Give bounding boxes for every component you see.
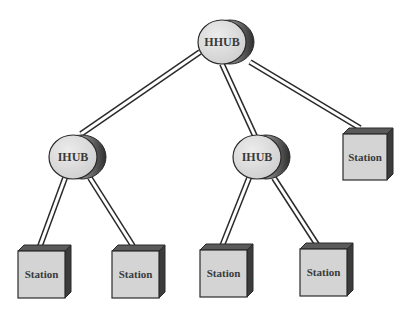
hierarchical-hub-diagram: HHUB IHUB IHUB Station Station Station	[0, 0, 413, 317]
station-label: Station	[119, 268, 153, 280]
link-ihub-left-station-1	[40, 178, 65, 246]
link-hhub-ihub-middle	[222, 64, 255, 136]
hub-ihub-middle: IHUB	[233, 135, 290, 179]
station-label: Station	[348, 151, 382, 163]
link-hhub-station-right	[250, 62, 360, 128]
hub-label: IHUB	[58, 150, 89, 164]
station-3: Station	[200, 244, 253, 297]
station-4: Station	[300, 243, 353, 296]
hub-hhub: HHUB	[198, 20, 254, 64]
hub-label: HHUB	[204, 35, 239, 49]
station-1: Station	[18, 245, 71, 298]
link-ihub-middle-station-3	[222, 178, 249, 246]
station-right: Station	[343, 128, 393, 180]
link-ihub-middle-station-4	[274, 178, 318, 246]
link-hhub-ihub-left	[81, 52, 200, 134]
station-label: Station	[25, 268, 59, 280]
hub-ihub-left: IHUB	[49, 135, 106, 179]
station-label: Station	[307, 266, 341, 278]
station-label: Station	[207, 267, 241, 279]
station-2: Station	[112, 245, 165, 298]
link-ihub-left-station-2	[90, 178, 133, 246]
hub-label: IHUB	[242, 150, 273, 164]
